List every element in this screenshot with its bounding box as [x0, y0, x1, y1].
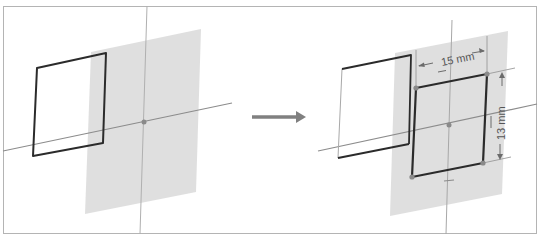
diagram-canvas: 15 mm 13 mm — [0, 0, 539, 239]
corner-point[interactable] — [480, 160, 485, 165]
corner-point[interactable] — [409, 174, 414, 179]
dimension-label-height[interactable]: 13 mm — [495, 106, 507, 140]
corner-point[interactable] — [484, 71, 489, 76]
diagram-stage: 15 mm 13 mm — [0, 0, 539, 239]
corner-point[interactable] — [413, 85, 418, 90]
center-point — [447, 123, 452, 128]
origin-point — [142, 120, 147, 125]
